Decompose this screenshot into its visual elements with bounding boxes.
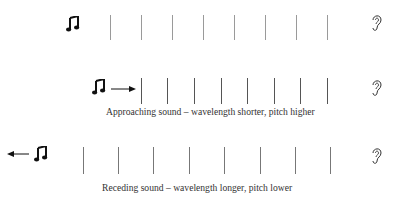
wavefront bbox=[110, 15, 111, 40]
arrow-left-icon bbox=[7, 151, 29, 157]
wavefront bbox=[189, 147, 190, 174]
approaching-caption: Approaching sound – wavelength shorter, … bbox=[106, 106, 315, 117]
wavefront bbox=[194, 78, 195, 104]
wavefront bbox=[224, 147, 225, 174]
wavefront bbox=[247, 78, 248, 104]
wavefront bbox=[327, 15, 328, 40]
music-note-icon bbox=[92, 79, 106, 95]
wavefront bbox=[203, 15, 204, 40]
wavefront bbox=[295, 147, 296, 174]
wavefront bbox=[141, 78, 142, 104]
ear-icon bbox=[370, 14, 382, 32]
music-note-icon bbox=[34, 146, 48, 162]
wavefront bbox=[296, 15, 297, 40]
wavefront bbox=[274, 78, 275, 104]
ear-icon bbox=[370, 147, 382, 165]
wavefront bbox=[141, 15, 142, 40]
wavefront bbox=[83, 147, 84, 174]
wavefront bbox=[172, 15, 173, 40]
arrow-right-icon bbox=[111, 86, 136, 92]
ear-icon bbox=[370, 79, 382, 97]
wavefront bbox=[153, 147, 154, 174]
wavefront bbox=[265, 15, 266, 40]
receding-caption: Receding sound – wavelength longer, pitc… bbox=[102, 182, 292, 193]
music-note-icon bbox=[66, 16, 80, 32]
wavefront bbox=[234, 15, 235, 40]
wavefront bbox=[118, 147, 119, 174]
wavefront bbox=[327, 78, 328, 104]
wavefront bbox=[221, 78, 222, 104]
wavefront bbox=[330, 147, 331, 174]
wavefront bbox=[260, 147, 261, 174]
wavefront bbox=[167, 78, 168, 104]
wavefront bbox=[300, 78, 301, 104]
